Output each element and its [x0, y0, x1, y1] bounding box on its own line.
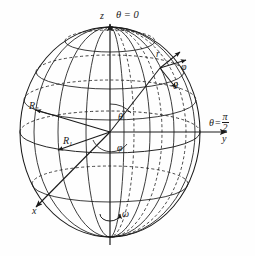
phi-angle-label: φ — [117, 143, 123, 153]
x-axis-label: x — [32, 206, 36, 216]
z-axis-label: z — [100, 11, 104, 21]
theta-pi-over-two-label: θ = π 2 — [209, 112, 229, 133]
phi-hat-label: φ — [181, 62, 187, 72]
pi-over-two-fraction: π 2 — [222, 112, 229, 133]
theta-hat-label: θ — [173, 81, 178, 91]
fraction-denominator: 2 — [222, 123, 229, 133]
y-axis-label: y — [222, 134, 226, 144]
x-axis — [36, 132, 110, 207]
R2-label: R2 — [29, 101, 39, 113]
R1-label: R1 — [63, 136, 73, 148]
theta-angle-label: θ — [118, 112, 123, 122]
theta-pi-symbol: θ — [209, 118, 214, 128]
R2-vector — [36, 110, 110, 132]
R1-subscript: 1 — [69, 140, 72, 147]
R2-subscript: 2 — [35, 105, 38, 112]
spherical-coordinates-figure: z θ = 0 y x θ = π 2 r φ θ θ φ R2 R1 ω — [0, 0, 255, 256]
r-hat-label: r — [156, 50, 160, 60]
omega-label: ω — [122, 209, 129, 219]
theta-pi-equals: = — [215, 118, 221, 128]
theta-zero-label: θ = 0 — [116, 10, 139, 21]
radius-line-to-point — [110, 68, 160, 132]
